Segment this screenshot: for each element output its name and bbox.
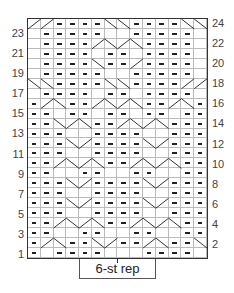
chart-cell (54, 59, 67, 69)
chart-cell (79, 138, 92, 148)
chart-cell (41, 99, 54, 109)
chart-cell (169, 19, 182, 29)
chart-cell (28, 168, 41, 178)
chart-cell (41, 168, 54, 178)
chart-cell (169, 69, 182, 79)
chart-cell (156, 119, 169, 129)
chart-cell (156, 69, 169, 79)
chart-cell (169, 49, 182, 59)
chart-cell (169, 119, 182, 129)
chart-cell (194, 178, 207, 188)
chart-cell (143, 109, 156, 119)
chart-cell (194, 19, 207, 29)
chart-cell (92, 39, 105, 49)
chart-cell (143, 138, 156, 148)
chart-cell (92, 129, 105, 139)
chart-cell (79, 109, 92, 119)
chart-cell (194, 29, 207, 39)
chart-cell (66, 138, 79, 148)
chart-cell (28, 198, 41, 208)
row-number-8: 8 (212, 179, 218, 189)
chart-cell (169, 39, 182, 49)
chart-cell (143, 79, 156, 89)
chart-cell (79, 188, 92, 198)
chart-cell (130, 109, 143, 119)
chart-cell (194, 39, 207, 49)
chart-cell (130, 248, 143, 258)
chart-cell (92, 109, 105, 119)
chart-cell (54, 69, 67, 79)
chart-cell (181, 138, 194, 148)
chart-cell (41, 188, 54, 198)
chart-cell (117, 138, 130, 148)
chart-cell (105, 158, 118, 168)
chart-cell (105, 188, 118, 198)
chart-cell (169, 79, 182, 89)
chart-cell (181, 208, 194, 218)
chart-cell (117, 29, 130, 39)
chart-cell (66, 148, 79, 158)
chart-cell (130, 218, 143, 228)
chart-cell (28, 238, 41, 248)
row-number-5: 5 (18, 209, 24, 219)
chart-cell (66, 218, 79, 228)
chart-cell (156, 198, 169, 208)
chart-cell (105, 19, 118, 29)
chart-cell (54, 138, 67, 148)
chart-cell (194, 188, 207, 198)
row-number-19: 19 (12, 68, 24, 78)
chart-cell (117, 39, 130, 49)
chart-cell (169, 129, 182, 139)
chart-cell (41, 119, 54, 129)
chart-cell (117, 129, 130, 139)
chart-cell (79, 129, 92, 139)
chart-cell (54, 178, 67, 188)
chart-cell (181, 29, 194, 39)
chart-cell (54, 238, 67, 248)
chart-cell (54, 248, 67, 258)
chart-cell (79, 198, 92, 208)
chart-cell (156, 39, 169, 49)
row-number-20: 20 (212, 58, 224, 68)
chart-cell (169, 188, 182, 198)
chart-cell (66, 129, 79, 139)
chart-cell (54, 79, 67, 89)
chart-cell (130, 158, 143, 168)
chart-cell (169, 248, 182, 258)
chart-cell (28, 248, 41, 258)
chart-cell (28, 158, 41, 168)
chart-cell (143, 168, 156, 178)
chart-cell (92, 208, 105, 218)
chart-cell (130, 238, 143, 248)
row-number-2: 2 (212, 239, 218, 249)
chart-cell (130, 188, 143, 198)
chart-cell (92, 49, 105, 59)
chart-cell (143, 29, 156, 39)
chart-cell (194, 69, 207, 79)
row-number-3: 3 (18, 229, 24, 239)
chart-cell (181, 148, 194, 158)
chart-cell (41, 129, 54, 139)
chart-cell (169, 148, 182, 158)
row-number-1: 1 (18, 249, 24, 259)
chart-cell (130, 129, 143, 139)
chart-cell (92, 79, 105, 89)
chart-cell (181, 129, 194, 139)
chart-cell (169, 29, 182, 39)
chart-cell (54, 148, 67, 158)
chart-cell (117, 89, 130, 99)
chart-cell (28, 119, 41, 129)
chart-cell (143, 39, 156, 49)
chart-cell (66, 248, 79, 258)
chart-cell (143, 59, 156, 69)
row-number-14: 14 (212, 118, 224, 128)
chart-cell (66, 89, 79, 99)
chart-cell (143, 218, 156, 228)
chart-cell (28, 29, 41, 39)
chart-cell (169, 99, 182, 109)
chart-cell (143, 198, 156, 208)
chart-cell (28, 49, 41, 59)
chart-cell (156, 138, 169, 148)
chart-cell (117, 208, 130, 218)
chart-cell (194, 158, 207, 168)
